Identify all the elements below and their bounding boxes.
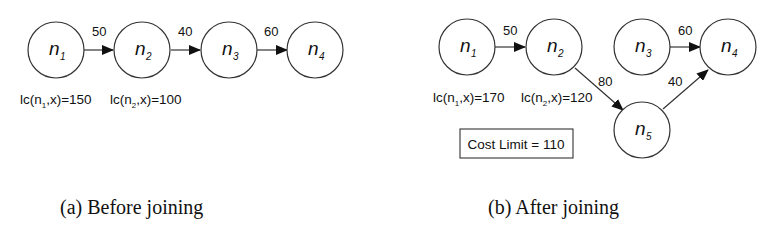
edge-weight-b-n1-n2: 50 bbox=[503, 23, 517, 38]
node-b-n2: n 2 bbox=[526, 19, 582, 75]
caption-a: (a) Before joining bbox=[60, 196, 203, 219]
node-subscript: 3 bbox=[233, 51, 239, 62]
lc-annotation-a-n2: lc(n2,x)=100 bbox=[110, 92, 182, 110]
node-subscript: 1 bbox=[60, 51, 66, 62]
node-a-n2: n 2 bbox=[114, 22, 170, 78]
node-a-n1: n 1 bbox=[28, 22, 84, 78]
edge-weight-b-n2-n5: 80 bbox=[598, 74, 612, 89]
edge-weight-b-n3-n4: 60 bbox=[678, 23, 692, 38]
node-label: n bbox=[721, 35, 732, 56]
edge-weight-a-n3-n4: 60 bbox=[264, 24, 278, 39]
node-label: n bbox=[460, 35, 471, 56]
node-label: n bbox=[49, 38, 60, 59]
node-a-n4: n 4 bbox=[287, 22, 343, 78]
panel-a-before-joining: 50 40 60 n 1 n 2 n 3 n 4 lc(n1,x)=150 lc… bbox=[20, 22, 343, 219]
edge-weight-a-n1-n2: 50 bbox=[92, 24, 106, 39]
lc-annotation-b-n2: lc(n2,x)=120 bbox=[521, 90, 593, 108]
cost-limit-box: Cost Limit = 110 bbox=[460, 129, 573, 158]
node-label: n bbox=[635, 35, 646, 56]
lc-annotation-a-n1: lc(n1,x)=150 bbox=[20, 92, 92, 110]
node-a-n3: n 3 bbox=[201, 22, 257, 78]
node-b-n3: n 3 bbox=[614, 19, 670, 75]
node-subscript: 1 bbox=[471, 48, 477, 59]
node-subscript: 4 bbox=[732, 48, 738, 59]
joining-diagram-figure: 50 40 60 n 1 n 2 n 3 n 4 lc(n1,x)=150 lc… bbox=[0, 0, 772, 237]
edge-weight-a-n2-n3: 40 bbox=[178, 24, 192, 39]
node-label: n bbox=[547, 35, 558, 56]
cost-limit-label: Cost Limit = 110 bbox=[468, 137, 565, 152]
node-b-n1: n 1 bbox=[439, 19, 495, 75]
node-b-n5: n 5 bbox=[614, 102, 670, 158]
node-subscript: 4 bbox=[319, 51, 325, 62]
node-label: n bbox=[135, 38, 146, 59]
lc-annotation-b-n1: lc(n1,x)=170 bbox=[433, 90, 505, 108]
node-subscript: 2 bbox=[145, 51, 152, 62]
node-label: n bbox=[635, 118, 646, 139]
node-subscript: 2 bbox=[557, 48, 564, 59]
caption-b: (b) After joining bbox=[488, 196, 619, 219]
edge-weight-b-n5-n4: 40 bbox=[668, 74, 682, 89]
node-subscript: 3 bbox=[646, 48, 652, 59]
panel-b-after-joining: 50 60 80 40 n 1 n 2 n 3 n 4 n 5 bbox=[433, 19, 756, 219]
node-label: n bbox=[308, 38, 319, 59]
node-label: n bbox=[222, 38, 233, 59]
node-b-n4: n 4 bbox=[700, 19, 756, 75]
node-subscript: 5 bbox=[646, 131, 652, 142]
